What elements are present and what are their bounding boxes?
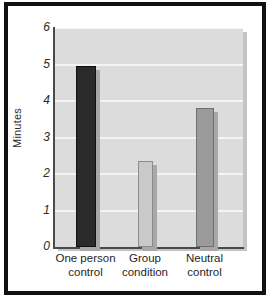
x-axis-tick-label-line: control xyxy=(165,266,245,280)
gridline xyxy=(54,28,243,29)
y-axis-tick-label: 2 xyxy=(28,167,50,179)
y-axis-tick-label: 3 xyxy=(28,131,50,143)
y-axis-tick-label: 1 xyxy=(28,204,50,216)
y-axis-tick-label: 4 xyxy=(28,94,50,106)
x-axis-tick-label: Neutralcontrol xyxy=(165,252,245,279)
bar[interactable] xyxy=(76,66,96,247)
x-axis-tick-label-line: Neutral xyxy=(165,252,245,266)
y-axis-title: Minutes xyxy=(11,98,23,158)
y-axis-tick-label: 5 xyxy=(28,58,50,70)
bar[interactable] xyxy=(138,161,153,247)
gridline xyxy=(54,64,243,66)
y-axis-tick-label: 0 xyxy=(28,240,50,252)
y-axis-line xyxy=(53,27,55,249)
y-axis-tick-label: 6 xyxy=(28,21,50,33)
bar-chart: 0123456 Minutes One personcontrolGroupco… xyxy=(0,0,274,306)
bar[interactable] xyxy=(196,108,214,247)
